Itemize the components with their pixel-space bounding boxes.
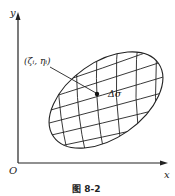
figure-caption: 图 8-2 <box>72 184 100 194</box>
area-element-label: Δσ <box>107 88 122 99</box>
x-axis-label: x <box>164 169 170 180</box>
origin-label: O <box>9 165 17 176</box>
grid-line <box>30 120 175 152</box>
region-boundary <box>32 32 175 168</box>
grid-line <box>136 20 144 170</box>
grid-line <box>39 20 56 170</box>
sample-point <box>95 92 99 96</box>
x-axis-arrow-icon <box>160 161 168 166</box>
leader-line <box>50 67 96 93</box>
point-label: (ζᵢ, ηᵢ) <box>24 56 51 66</box>
y-axis-arrow-icon <box>16 12 21 20</box>
grid-line <box>30 40 175 92</box>
figure-canvas: y x O (ζᵢ, ηᵢ) Δσ 图 8-2 <box>0 0 175 196</box>
y-axis-label: y <box>9 7 16 18</box>
partition-grid <box>30 20 175 170</box>
